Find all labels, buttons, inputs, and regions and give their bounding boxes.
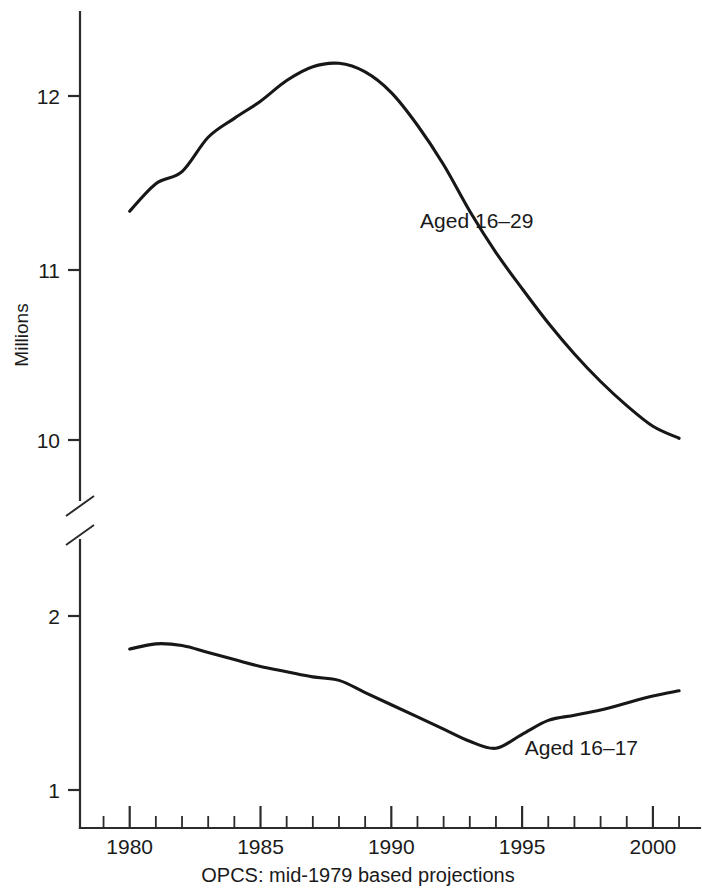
series-label-aged-16-17: Aged 16–17: [525, 736, 638, 759]
x-tick-label: 1990: [368, 835, 415, 858]
axis-break-icon: [66, 496, 94, 545]
line-chart-figure: 12 11 10 2 1 Millions 198019851990199520…: [0, 0, 702, 890]
x-tick-label: 1980: [106, 835, 153, 858]
y-tick-label-11: 11: [38, 259, 60, 282]
series-line-aged-16-29: [130, 63, 679, 438]
series-line-aged-16-17: [130, 644, 679, 749]
chart-container: 12 11 10 2 1 Millions 198019851990199520…: [0, 0, 702, 890]
y-axis-title: Millions: [11, 303, 32, 366]
y-tick-label-1: 1: [48, 779, 60, 802]
x-tick-label: 2000: [630, 835, 677, 858]
source-note: OPCS: mid-1979 based projections: [201, 864, 515, 886]
x-axis-ticks: [104, 806, 680, 828]
x-axis-tick-labels: 19801985199019952000: [106, 835, 676, 858]
x-tick-label: 1995: [499, 835, 546, 858]
y-axis-ticks-lower: [68, 616, 80, 790]
y-tick-label-12: 12: [37, 85, 60, 108]
x-tick-label: 1985: [237, 835, 284, 858]
y-tick-label-10: 10: [37, 429, 60, 452]
y-axis-ticks-upper: [68, 96, 80, 440]
y-tick-label-2: 2: [48, 605, 60, 628]
series-label-aged-16-29: Aged 16–29: [420, 209, 533, 232]
